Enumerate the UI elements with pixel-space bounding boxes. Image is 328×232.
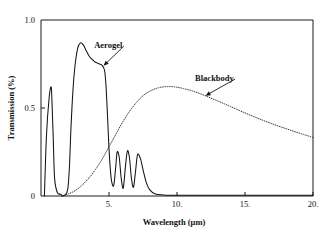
- y-axis-tick-label: 0: [31, 191, 35, 201]
- chart-background: [0, 0, 328, 232]
- x-axis-tick-label: 20.: [308, 199, 319, 209]
- x-axis-title: Wavelength (μm): [143, 217, 206, 227]
- y-axis-tick-label: 1.0: [24, 15, 35, 25]
- transmission-spectrum-chart: 5.10.15.20. 00.51.0 AerogelBlackbody Wav…: [0, 0, 328, 232]
- y-axis-tick-label: 0.5: [24, 103, 35, 113]
- y-axis-title: Transmission (%): [6, 75, 16, 140]
- chart-figure: 5.10.15.20. 00.51.0 AerogelBlackbody Wav…: [0, 0, 328, 232]
- x-axis-tick-label: 15.: [240, 199, 251, 209]
- x-axis-tick-label: 5.: [106, 199, 112, 209]
- series-label-blackbody: Blackbody: [195, 73, 234, 83]
- x-axis-tick-label: 10.: [172, 199, 183, 209]
- series-label-aerogel: Aerogel: [94, 40, 123, 50]
